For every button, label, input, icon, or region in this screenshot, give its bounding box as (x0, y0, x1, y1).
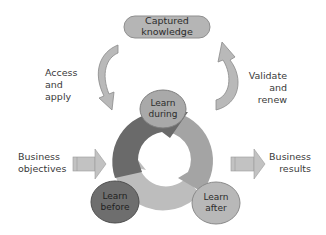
business-results-label: Business results (266, 151, 311, 175)
business-results-arrow (231, 149, 265, 179)
validate-renew-line3: renew (240, 94, 287, 106)
business-results-line1: Business (266, 151, 311, 163)
business-results-line2: results (266, 163, 311, 175)
captured-knowledge-line1: Captured (124, 15, 210, 26)
access-apply-line2: and (45, 79, 78, 91)
learn-after-line2: after (192, 203, 240, 214)
learn-before-label: Learn before (91, 191, 139, 213)
access-apply-curved-arrow (98, 45, 118, 110)
access-apply-label: Access and apply (45, 67, 78, 103)
learn-before-line2: before (91, 202, 139, 213)
business-objectives-line2: objectives (18, 163, 66, 175)
learn-during-line2: during (140, 109, 186, 120)
learn-after-line1: Learn (192, 192, 240, 203)
access-apply-line1: Access (45, 67, 78, 79)
captured-knowledge-label: Captured knowledge (124, 15, 210, 37)
access-apply-line3: apply (45, 91, 78, 103)
learn-during-line1: Learn (140, 98, 186, 109)
learn-during-label: Learn during (140, 98, 186, 120)
validate-renew-label: Validate and renew (240, 70, 287, 106)
validate-renew-line1: Validate (240, 70, 287, 82)
captured-knowledge-line2: knowledge (124, 26, 210, 37)
learn-before-line1: Learn (91, 191, 139, 202)
business-objectives-arrow (73, 149, 106, 179)
business-objectives-line1: Business (18, 151, 66, 163)
validate-renew-curved-arrow (216, 42, 238, 110)
validate-renew-line2: and (240, 82, 287, 94)
learn-after-label: Learn after (192, 192, 240, 214)
business-objectives-label: Business objectives (18, 151, 66, 175)
